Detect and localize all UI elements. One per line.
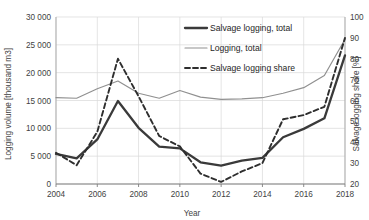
x-axis-tick-label: 2010: [171, 190, 190, 199]
y2-axis-tick-label: 100: [350, 13, 364, 22]
x-axis-tick-label: 2016: [295, 190, 314, 199]
x-axis-tick-label: 2006: [88, 190, 107, 199]
legend-label: Salvage logging share: [210, 63, 295, 73]
chart-container: 05 00010 00015 00020 00025 00030 000 203…: [0, 0, 369, 220]
y-axis-tick-label: 20 000: [26, 69, 51, 78]
data-series-group: [56, 38, 345, 182]
x-axis-tick-label: 2008: [129, 190, 148, 199]
x-axis-tick-label: 2012: [212, 190, 231, 199]
y-axis-tick-label: 15 000: [26, 97, 51, 106]
y-axis-tick-label: 10 000: [26, 124, 51, 133]
line-chart: 05 00010 00015 00020 00025 00030 000 203…: [0, 0, 369, 220]
legend-label: Salvage logging, total: [210, 23, 292, 33]
y2-axis-title: Salvage logging share [%]: [352, 56, 361, 151]
plot-gridlines: [56, 17, 345, 184]
legend: Salvage logging, totalLogging, totalSalv…: [185, 23, 295, 73]
y2-axis-tick-label: 90: [350, 34, 360, 43]
x-axis-tick-label: 2018: [336, 190, 355, 199]
x-axis-tick-label: 2014: [253, 190, 272, 199]
x-axis-tick-label: 2004: [47, 190, 66, 199]
y-axis-tick-label: 30 000: [26, 13, 51, 22]
y-axis-title: Logging volume [thousand m3]: [4, 48, 13, 160]
x-axis-tick-labels: 20042006200820102012201420162018: [47, 190, 355, 199]
y-axis-tick-labels: 05 00010 00015 00020 00025 00030 000: [26, 13, 51, 189]
x-axis-title: Year: [184, 209, 201, 218]
y-axis-tick-label: 5 000: [31, 152, 52, 161]
series-line: [56, 38, 345, 182]
y-axis-tick-label: 25 000: [26, 41, 51, 50]
legend-label: Logging, total: [210, 43, 262, 53]
y2-axis-tick-label: 20: [350, 180, 360, 189]
series-line: [56, 55, 345, 165]
y-axis-tick-label: 0: [46, 180, 51, 189]
y2-axis-tick-label: 30: [350, 159, 360, 168]
